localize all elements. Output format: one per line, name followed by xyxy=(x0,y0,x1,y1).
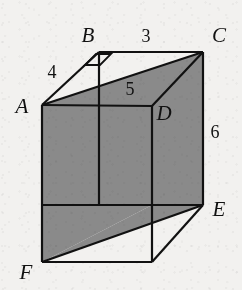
measure-label-AB: 4 xyxy=(48,62,57,82)
vertex-label-C: C xyxy=(212,23,227,47)
vertex-label-A: A xyxy=(14,94,29,118)
measure-label-AD: 5 xyxy=(126,79,135,99)
measure-label-CE: 6 xyxy=(211,122,220,142)
vertex-label-F: F xyxy=(19,260,33,284)
vertex-label-B: B xyxy=(82,23,95,47)
vertex-label-E: E xyxy=(212,197,226,221)
edge-A-D xyxy=(42,105,152,106)
cuboid-diagram-svg: A B C D E F 4 3 5 6 xyxy=(0,0,242,290)
vertex-label-D: D xyxy=(155,101,171,125)
shaded-face-front xyxy=(42,105,152,205)
geometry-figure: A B C D E F 4 3 5 6 xyxy=(0,0,242,290)
measure-label-BC: 3 xyxy=(142,26,151,46)
